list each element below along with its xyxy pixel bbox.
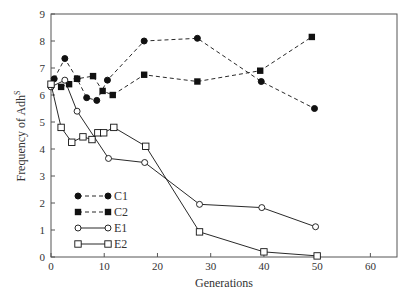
series-line — [61, 37, 312, 95]
legend-marker — [75, 193, 81, 199]
data-point — [110, 92, 116, 98]
data-point — [74, 108, 80, 114]
y-tick-label: 3 — [40, 170, 46, 182]
y-tick-label: 0 — [40, 251, 46, 263]
data-point — [314, 253, 320, 259]
y-tick-label: 4 — [40, 143, 46, 155]
data-point — [48, 81, 54, 87]
data-point — [261, 249, 267, 255]
data-point — [58, 84, 64, 90]
y-tick-label: 7 — [40, 62, 46, 74]
data-point — [62, 77, 68, 83]
legend-marker — [105, 225, 111, 231]
data-point — [143, 143, 149, 149]
data-point — [196, 229, 202, 235]
data-series — [48, 34, 321, 259]
legend-label: C2 — [114, 205, 128, 219]
data-point — [105, 155, 111, 161]
legend-item-c2: C2 — [75, 205, 128, 219]
data-point — [99, 88, 105, 94]
data-point — [58, 124, 64, 130]
legend: C1C2E1E2 — [75, 189, 128, 251]
legend-label: E1 — [114, 221, 127, 235]
legend-label: E2 — [114, 237, 127, 251]
data-point — [309, 34, 315, 40]
legend-marker — [105, 193, 111, 199]
y-axis-label-superscript: S — [13, 90, 22, 94]
data-point — [141, 72, 147, 78]
data-point — [259, 205, 265, 211]
series-line — [51, 80, 316, 227]
data-point — [94, 97, 100, 103]
data-point — [194, 35, 200, 41]
data-point — [104, 77, 110, 83]
x-axis-label: Generations — [195, 276, 253, 290]
data-point — [74, 76, 80, 82]
series-line — [51, 84, 317, 256]
x-tick-label: 40 — [258, 260, 270, 272]
data-point — [257, 68, 263, 74]
data-point — [90, 73, 96, 79]
data-point — [142, 160, 148, 166]
series-c2 — [58, 34, 315, 98]
y-axis-label-text: Frequency of Adh — [14, 95, 28, 182]
data-point — [80, 134, 86, 140]
x-tick-label: 20 — [152, 260, 164, 272]
y-tick-label: 6 — [40, 89, 46, 101]
x-tick-label: 60 — [365, 260, 377, 272]
legend-marker — [75, 241, 81, 247]
data-point — [258, 79, 264, 85]
y-tick-label: 5 — [40, 116, 46, 128]
data-point — [89, 136, 95, 142]
y-tick-label: 2 — [40, 197, 46, 209]
y-tick-label: 1 — [40, 224, 46, 236]
legend-label: C1 — [114, 189, 128, 203]
legend-marker — [105, 241, 111, 247]
data-point — [111, 124, 117, 130]
legend-item-e2: E2 — [75, 237, 128, 251]
data-point — [62, 56, 68, 62]
x-tick-label: 10 — [99, 260, 111, 272]
y-axis-label: Frequency of AdhS — [13, 90, 28, 181]
data-point — [69, 139, 75, 145]
data-point — [100, 130, 106, 136]
data-point — [84, 95, 90, 101]
data-point — [311, 106, 317, 112]
data-point — [194, 78, 200, 84]
x-tick-label: 50 — [312, 260, 324, 272]
x-tick-label: 0 — [48, 260, 54, 272]
y-tick-label: 8 — [40, 35, 46, 47]
x-tick-label: 30 — [205, 260, 217, 272]
legend-item-e1: E1 — [75, 221, 127, 235]
chart: 01020304050600123456789 C1C2E1E2 Generat… — [0, 0, 419, 299]
y-tick-label: 9 — [40, 8, 46, 20]
legend-marker — [105, 209, 111, 215]
legend-item-c1: C1 — [75, 189, 128, 203]
data-point — [313, 224, 319, 230]
data-point — [197, 201, 203, 207]
series-e2 — [48, 81, 321, 259]
data-point — [141, 38, 147, 44]
legend-marker — [75, 225, 81, 231]
legend-marker — [75, 209, 81, 215]
